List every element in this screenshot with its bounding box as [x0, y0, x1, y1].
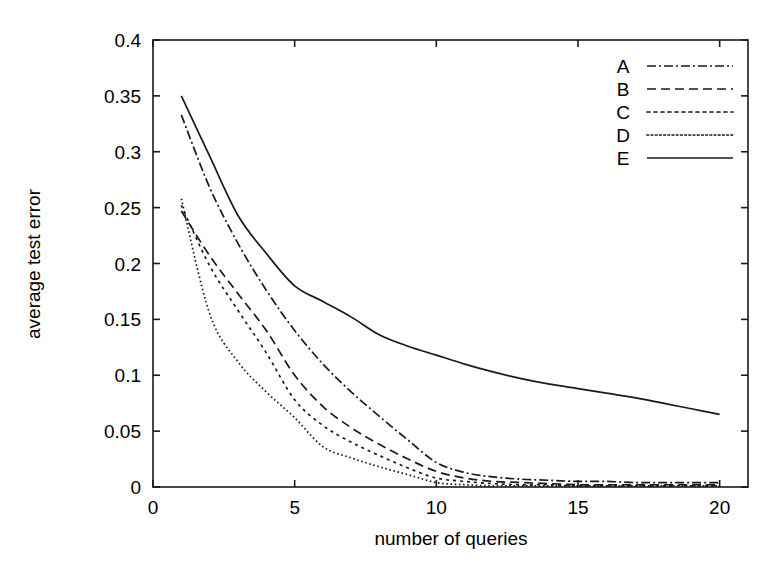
y-tick-label: 0.15 [104, 309, 141, 330]
y-tick-label: 0.1 [115, 365, 141, 386]
plot-frame [153, 40, 748, 487]
y-tick-label: 0.2 [115, 254, 141, 275]
series-line-d [181, 199, 719, 486]
y-axis-title: average test error [23, 188, 44, 339]
series-line-b [181, 211, 719, 485]
y-tick-label: 0.25 [104, 198, 141, 219]
x-axis-tick-labels: 05101520 [148, 497, 731, 518]
y-axis-tick-labels: 00.050.10.150.20.250.30.350.4 [104, 30, 141, 498]
series-line-e [181, 96, 719, 414]
x-axis-title: number of queries [374, 528, 527, 549]
data-series-group [181, 96, 719, 486]
line-chart: 05101520 00.050.10.150.20.250.30.350.4 n… [0, 0, 783, 572]
legend-label-d: D [616, 125, 630, 146]
legend-label-a: A [617, 56, 630, 77]
x-tick-label: 0 [148, 497, 159, 518]
y-tick-label: 0.3 [115, 142, 141, 163]
x-tick-label: 10 [426, 497, 447, 518]
chart-figure: 05101520 00.050.10.150.20.250.30.350.4 n… [0, 0, 783, 572]
legend-label-b: B [617, 79, 630, 100]
y-tick-label: 0 [130, 477, 141, 498]
legend-label-c: C [616, 102, 630, 123]
y-tick-label: 0.4 [115, 30, 142, 51]
x-tick-label: 5 [289, 497, 300, 518]
y-tick-label: 0.35 [104, 86, 141, 107]
x-tick-label: 15 [567, 497, 588, 518]
series-line-a [181, 115, 719, 483]
y-tick-label: 0.05 [104, 421, 141, 442]
chart-legend: ABCDE [616, 56, 733, 169]
axis-tick-marks [153, 40, 748, 487]
legend-label-e: E [617, 148, 630, 169]
x-tick-label: 20 [709, 497, 730, 518]
